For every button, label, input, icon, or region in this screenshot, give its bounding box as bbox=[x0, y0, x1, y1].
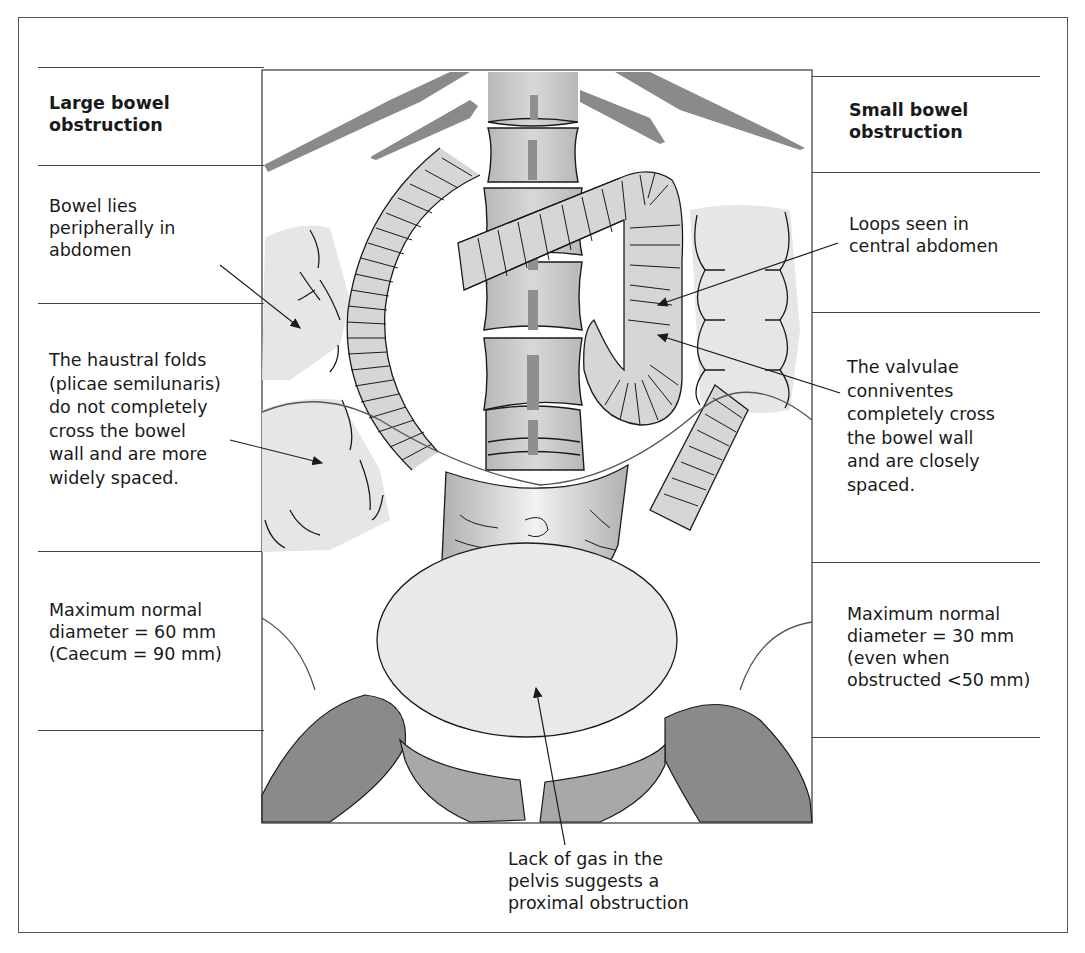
large-bowel-right bbox=[690, 205, 800, 413]
abdominal-xray-illustration bbox=[0, 0, 1085, 953]
large-bowel-arc bbox=[347, 148, 480, 470]
bladder bbox=[377, 543, 677, 737]
